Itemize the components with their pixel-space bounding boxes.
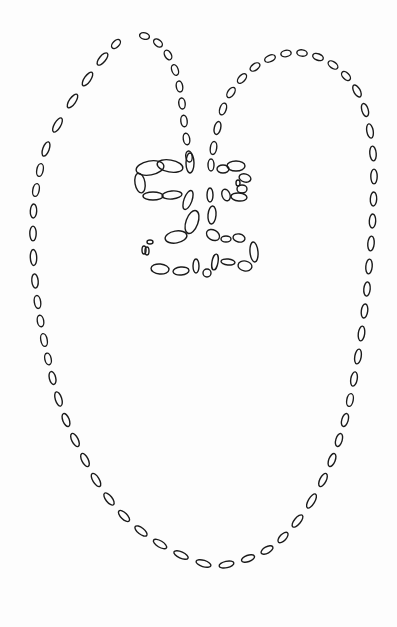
outline-dash [30,249,37,265]
outline-dash [276,530,290,544]
outline-dash [209,141,217,155]
outline-dash [264,53,277,63]
outline-dash [225,86,237,99]
outline-dash [133,524,148,538]
center-motif-dash [227,161,245,171]
outline-dash [180,115,188,127]
outline-dash [48,371,57,385]
right-lobe-outer-path [209,49,377,569]
outline-dash [370,192,377,206]
outline-dash [89,472,102,488]
center-motif-dash [151,263,170,275]
outline-dash [317,472,329,488]
center-motif-dash [236,180,240,186]
outline-dash [173,549,190,561]
center-motif-dash [143,192,163,200]
outline-dash [32,183,41,197]
outline-dash [346,393,355,407]
center-motif-dash [232,233,245,243]
left-lobe-outer-path [30,38,212,569]
outline-dash [326,452,337,467]
outline-dash [102,491,116,506]
outline-dash [260,544,275,556]
outline-dash [36,315,44,327]
outline-dash [360,103,370,118]
outline-dash [36,163,45,177]
outline-dash [163,49,174,61]
outline-dash [366,123,375,138]
center-motif-dash [147,240,153,244]
center-motif-dash [164,229,188,245]
center-motif-dash [231,192,248,201]
outline-dash [30,204,37,218]
center-motif-dash [237,260,253,272]
outline-dash [354,349,363,365]
center-motif-dash [221,236,231,242]
outline-dash [213,121,222,135]
outline-dash [350,371,359,386]
outline-dash [241,553,256,564]
outline-dash [236,72,248,85]
outline-dash [170,64,180,77]
outline-dash [340,70,352,82]
outline-dash [33,295,41,309]
outline-dash [60,412,71,427]
center-motif-dash [162,190,183,200]
outline-dash [369,214,376,228]
outline-dash [280,49,291,57]
outline-dash [218,560,234,569]
outline-dash [65,93,79,110]
outline-dash [175,81,183,93]
outline-dash [290,513,305,529]
outline-dash [117,509,132,524]
center-motif-dash [220,188,232,202]
outline-dash [40,141,51,157]
center-motif-dash [145,247,149,255]
outline-dash [152,37,164,48]
center-motif-dash [207,206,217,225]
outline-dash [296,49,307,57]
outline-dash [178,98,186,110]
outline-dash [369,146,377,161]
outline-dash [53,391,64,407]
outline-dash [365,259,373,274]
center-motif-dash [203,269,211,277]
outline-dash [152,537,168,550]
outline-dash [31,274,39,289]
outline-dash [371,169,377,184]
center-motif-dash [211,254,220,271]
outline-dash [30,226,36,241]
center-motif-dash [186,153,194,173]
center-motif-dash [193,259,199,273]
center-motif-dash [173,266,190,275]
outline-dash [44,353,53,366]
outline-dash [357,326,365,342]
outline-dash [249,61,262,73]
drawing-canvas [0,0,397,627]
outline-dash [363,282,371,297]
outline-dash [367,236,375,251]
center-motif-dash [221,258,235,265]
outline-dash [182,133,190,145]
outline-dash [334,433,344,448]
outline-dash [95,51,110,67]
center-motif-dash [181,189,195,211]
outline-dash [195,558,212,569]
outline-dash [360,304,368,319]
outline-dash [218,102,228,116]
center-motif-dash [208,159,214,171]
center-motif-dash [204,227,221,243]
left-lobe-inner-path [139,32,193,163]
outline-dash [340,413,350,428]
center-motif-dash [249,242,259,263]
outline-dash [110,38,122,50]
center-motif-dash [207,188,213,202]
center-motif-dash [182,209,201,236]
outline-dash [40,333,49,347]
outline-dash [139,32,150,41]
dashed-heart-outline-drawing [0,0,397,627]
outline-dash [69,432,81,448]
outline-dash [327,59,340,71]
outline-dash [351,84,363,99]
outline-dash [79,452,91,468]
